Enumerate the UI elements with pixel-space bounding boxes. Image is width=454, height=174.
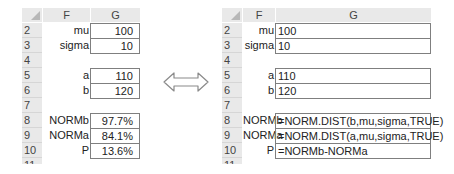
value-cell-g[interactable]: 10 <box>275 38 431 54</box>
row-header[interactable]: 10 <box>222 143 242 158</box>
value-cell-g[interactable] <box>275 53 431 69</box>
label-cell-f[interactable]: a <box>243 68 275 83</box>
row-header[interactable]: 3 <box>222 38 242 53</box>
label-cell-f[interactable]: NORMb <box>243 113 275 128</box>
row-header[interactable]: 2 <box>222 23 242 38</box>
label-cell-f[interactable] <box>243 53 275 68</box>
row-header[interactable]: 11 <box>222 158 242 164</box>
label-cell-f[interactable] <box>243 98 275 113</box>
label-cell-f[interactable]: P <box>243 143 275 158</box>
value-cell-g[interactable]: 100 <box>275 23 431 39</box>
label-cell-f[interactable]: sigma <box>243 38 275 53</box>
column-header-f[interactable]: F <box>243 8 275 22</box>
value-cell-g[interactable]: 120 <box>275 83 431 99</box>
row-header[interactable]: 8 <box>222 113 242 128</box>
label-cell-f[interactable]: mu <box>243 23 275 38</box>
value-cell-g[interactable]: 110 <box>275 68 431 84</box>
row-header[interactable]: 9 <box>222 128 242 143</box>
column-header-g[interactable]: G <box>276 8 431 22</box>
label-cell-f[interactable]: b <box>243 83 275 98</box>
value-cell-g[interactable] <box>275 98 431 114</box>
value-cell-g[interactable]: =NORM.DIST(a,mu,sigma,TRUE) <box>275 128 431 144</box>
value-cell-g[interactable]: =NORMb-NORMa <box>275 143 431 159</box>
right-sheet-formulas: F G 2mu1003sigma1045a1106b12078NORMb=NOR… <box>0 0 454 174</box>
select-all-corner[interactable] <box>222 8 242 22</box>
row-header[interactable]: 6 <box>222 83 242 98</box>
row-header[interactable]: 4 <box>222 53 242 68</box>
row-header[interactable]: 5 <box>222 68 242 83</box>
row-header[interactable]: 7 <box>222 98 242 113</box>
label-cell-f[interactable]: NORMa <box>243 128 275 143</box>
value-cell-g[interactable]: =NORM.DIST(b,mu,sigma,TRUE) <box>275 113 431 129</box>
